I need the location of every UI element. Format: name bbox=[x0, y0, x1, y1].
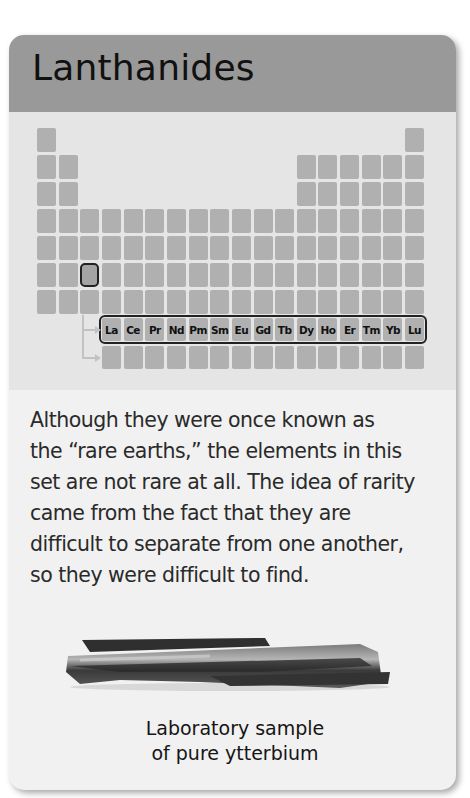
caption-line: Laboratory sample bbox=[0, 716, 470, 741]
description-line: came from the fact that they are bbox=[30, 498, 450, 529]
card-title: Lanthanides bbox=[32, 47, 255, 88]
caption-line: of pure ytterbium bbox=[0, 741, 470, 766]
ytterbium-sample-image bbox=[60, 632, 392, 692]
description-line: Although they were once known as bbox=[30, 405, 450, 436]
description-line: difficult to separate from one another, bbox=[30, 529, 450, 560]
description-line: set are not rare at all. The idea of rar… bbox=[30, 467, 450, 498]
description-text: Although they were once known as the “ra… bbox=[30, 405, 450, 591]
card-header: Lanthanides bbox=[9, 35, 456, 112]
image-caption: Laboratory sample of pure ytterbium bbox=[0, 716, 470, 766]
description-line: so they were difficult to find. bbox=[30, 560, 450, 591]
periodic-table-panel bbox=[9, 112, 456, 390]
description-line: the “rare earths,” the elements in this bbox=[30, 436, 450, 467]
